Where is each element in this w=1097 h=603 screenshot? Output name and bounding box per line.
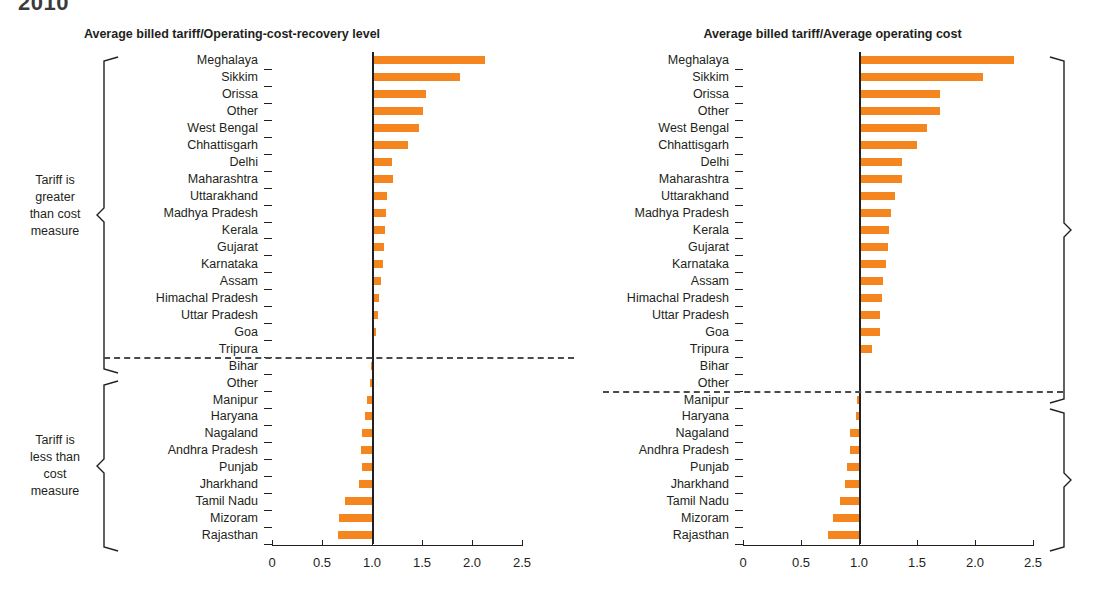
category-label: Punjab [690, 460, 729, 474]
plot-area-right: MeghalayaSikkimOrissaOtherWest BengalChh… [743, 52, 1033, 546]
category-tick [735, 188, 743, 189]
bar-row: West Bengal [272, 120, 522, 137]
bar-row: Madhya Pradesh [743, 205, 1033, 222]
bar [859, 260, 886, 268]
category-label: Madhya Pradesh [163, 206, 258, 220]
bar-row: Maharashtra [743, 171, 1033, 188]
bar [372, 73, 460, 81]
bar-row: Assam [743, 272, 1033, 289]
x-tick-label: 1.5 [908, 555, 926, 570]
bar-row: Meghalaya [272, 52, 522, 69]
bar-row: Nagaland [272, 425, 522, 442]
bar [833, 514, 859, 522]
baseline-rule [859, 52, 861, 544]
bar [847, 463, 859, 471]
category-label: Bihar [700, 359, 729, 373]
bar-row: Tamil Nadu [272, 493, 522, 510]
x-axis-right [743, 545, 1033, 546]
bar-row: Punjab [272, 459, 522, 476]
category-tick [735, 425, 743, 426]
bracket-upper-right [1048, 56, 1072, 404]
category-label: Rajasthan [673, 528, 729, 542]
category-tick [735, 205, 743, 206]
category-label: Other [227, 104, 258, 118]
bar-row: Haryana [272, 408, 522, 425]
bar [859, 90, 940, 98]
bar-row: Punjab [743, 459, 1033, 476]
category-label: Karnataka [201, 257, 258, 271]
bar-row: Tamil Nadu [743, 493, 1033, 510]
category-tick [735, 137, 743, 138]
bar-row: Uttar Pradesh [743, 306, 1033, 323]
bar-rows-left: MeghalayaSikkimOrissaOtherWest BengalChh… [272, 52, 522, 544]
category-label: Punjab [219, 460, 258, 474]
category-tick [264, 289, 272, 290]
bar-row: Karnataka [272, 255, 522, 272]
bar [359, 480, 372, 488]
bar-row: Tripura [743, 340, 1033, 357]
category-label: Assam [691, 274, 729, 288]
category-label: Delhi [230, 155, 259, 169]
category-label: Kerala [222, 223, 258, 237]
category-label: Uttarakhand [190, 189, 258, 203]
bar [372, 124, 419, 132]
bar-row: West Bengal [743, 120, 1033, 137]
category-tick [264, 205, 272, 206]
category-label: Chhattisgarh [187, 138, 258, 152]
baseline-rule [372, 52, 374, 544]
category-label: Nagaland [675, 426, 729, 440]
category-tick [264, 374, 272, 375]
category-tick [264, 137, 272, 138]
bar-row: Chhattisgarh [272, 137, 522, 154]
category-tick [735, 476, 743, 477]
category-tick [264, 459, 272, 460]
category-label: Meghalaya [668, 53, 729, 67]
category-tick [735, 171, 743, 172]
x-tick-label: 0.5 [792, 555, 810, 570]
bar [345, 497, 372, 505]
bar-row: Jharkhand [743, 476, 1033, 493]
category-tick [264, 323, 272, 324]
bar [372, 192, 387, 200]
category-tick [735, 272, 743, 273]
category-tick [735, 340, 743, 341]
bar-row: Rajasthan [272, 527, 522, 544]
bar [850, 446, 859, 454]
category-tick [264, 544, 272, 545]
bar [845, 480, 859, 488]
bar [365, 412, 372, 420]
bar-row: Andhra Pradesh [743, 442, 1033, 459]
x-tick [322, 540, 323, 546]
bar-row: Uttarakhand [743, 188, 1033, 205]
bracket-label-upper-line-0: Tariff is [12, 172, 98, 189]
category-tick [735, 120, 743, 121]
bracket-label-lower-line-3: measure [12, 483, 98, 500]
category-tick [264, 154, 272, 155]
bar-row: Himachal Pradesh [272, 289, 522, 306]
bar-row: Andhra Pradesh [272, 442, 522, 459]
category-tick [735, 255, 743, 256]
category-label: Manipur [213, 393, 258, 407]
bar-rows-right: MeghalayaSikkimOrissaOtherWest BengalChh… [743, 52, 1033, 544]
x-tick-label: 1.5 [413, 555, 431, 570]
bar-row: Other [743, 103, 1033, 120]
bracket-label-upper-left: Tariff isgreaterthan costmeasure [12, 172, 98, 240]
bar [828, 531, 859, 539]
bar [338, 531, 372, 539]
category-label: Himachal Pradesh [156, 291, 258, 305]
x-tick [272, 540, 273, 546]
x-tick-label: 2.0 [463, 555, 481, 570]
category-label: Orissa [222, 87, 258, 101]
category-tick [735, 493, 743, 494]
category-tick [264, 442, 272, 443]
category-tick [264, 222, 272, 223]
bar-row: Bihar [743, 357, 1033, 374]
group-divider [104, 357, 574, 359]
category-tick [735, 289, 743, 290]
bar [372, 260, 383, 268]
category-tick [735, 323, 743, 324]
x-tick-label: 2.5 [1024, 555, 1042, 570]
category-tick [735, 544, 743, 545]
category-label: West Bengal [187, 121, 258, 135]
category-tick [735, 442, 743, 443]
